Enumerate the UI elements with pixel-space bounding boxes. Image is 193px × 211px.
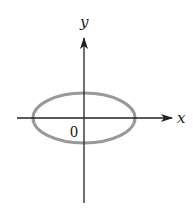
y-axis-label: y: [79, 13, 89, 31]
coordinate-diagram: y x 0: [0, 0, 193, 211]
x-axis-label: x: [177, 109, 186, 127]
origin-label: 0: [70, 123, 78, 140]
diagram-canvas: y x 0: [0, 0, 193, 211]
